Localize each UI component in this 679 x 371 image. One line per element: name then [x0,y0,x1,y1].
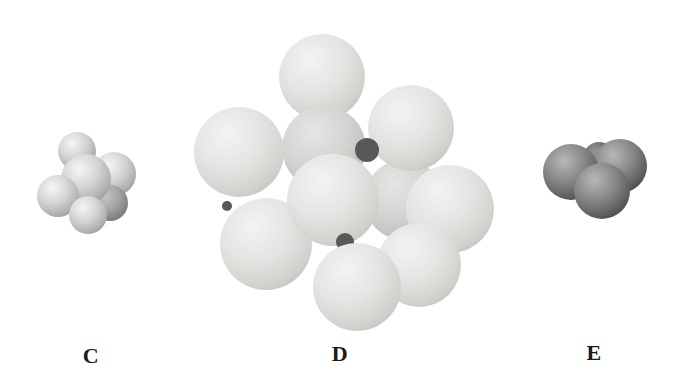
atom-sphere-left [194,107,284,197]
crevice-3-shadow [222,201,232,211]
atom-sphere-front-bottom [69,196,107,234]
cluster-E-model [543,139,647,219]
atom-sphere-center [287,154,379,246]
cluster-label-e: E [586,342,601,364]
cluster-label-c: C [83,345,99,367]
crevice-1-shadow [355,138,379,162]
cluster-label-d: D [332,343,348,365]
atom-sphere-upper-right [368,85,454,171]
figure: C D E [0,0,679,371]
cluster-D-model [194,34,494,331]
atom-sphere-front-bottom [574,163,630,219]
figure-canvas [0,0,679,371]
cluster-C-model [37,132,136,234]
atom-sphere-front-bottom [313,243,401,331]
